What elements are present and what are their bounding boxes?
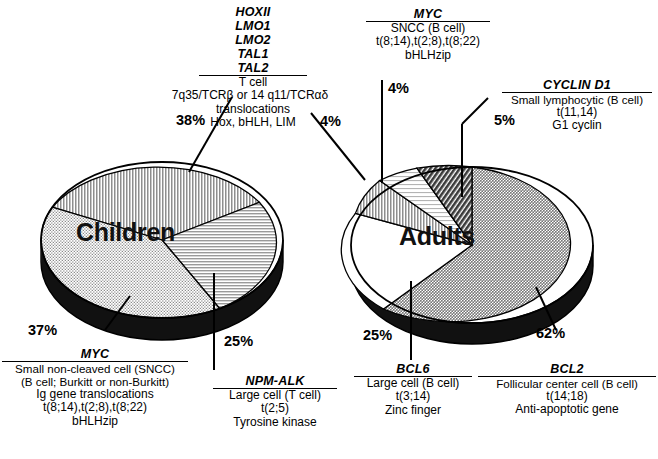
gene-tal1: TAL1	[168, 47, 338, 61]
myc-adults-line-1: SNCC (B cell)	[352, 22, 504, 35]
t-cell-line-4: Hox, bHLH, LIM	[168, 116, 338, 129]
bcl6-line-3: Zinc finger	[354, 404, 472, 417]
gene-bcl2: BCL2	[478, 362, 656, 377]
callout-cyclin-d1: CYCLIN D1 Small lymphocytic (B cell) t(1…	[499, 78, 655, 133]
gene-myc-children: MYC	[2, 347, 188, 362]
cyclin-d1-line-2: t(11,14)	[499, 106, 655, 119]
npm-alk-line-3: Tyrosine kinase	[213, 416, 337, 429]
pie-label-children: Children	[76, 218, 175, 247]
percent-adults-bcl6: 25%	[363, 327, 392, 343]
gene-lmo2: LMO2	[168, 33, 338, 47]
callout-myc-children: MYC Small non-cleaved cell (SNCC) (B cel…	[2, 347, 188, 428]
figure-canvas: Children Adults 38% 37% 25% 4% 4% 5% 25%…	[0, 0, 658, 459]
t-cell-line-3: translocations	[168, 103, 338, 116]
gene-lmo1: LMO1	[168, 19, 338, 33]
percent-adults-myc: 4%	[388, 80, 409, 96]
percent-children-npm-alk: 25%	[224, 333, 253, 349]
gene-bcl6: BCL6	[354, 362, 472, 377]
npm-alk-line-2: t(2;5)	[213, 402, 337, 415]
gene-myc-adults: MYC	[366, 7, 490, 22]
bcl2-line-2: t(14;18)	[478, 390, 656, 403]
callout-t-cell-children: HOXII LMO1 LMO2 TAL1 TAL2 T cell 7q35/TC…	[168, 5, 338, 130]
percent-adults-bcl2: 62%	[536, 325, 565, 341]
myc-adults-line-2: t(8;14),t(2;8),t(8;22)	[352, 35, 504, 48]
myc-adults-line-3: bHLHzip	[352, 49, 504, 62]
pie-adults	[341, 166, 593, 344]
callout-npm-alk: NPM-ALK Large cell (T cell) t(2;5) Tyros…	[213, 374, 337, 429]
myc-children-line-5: bHLHzip	[2, 415, 188, 428]
pie-children	[41, 162, 283, 340]
callout-bcl6: BCL6 Large cell (B cell) t(3;14) Zinc fi…	[354, 362, 472, 417]
pie-label-adults: Adults	[399, 222, 475, 251]
bcl2-line-3: Anti-apoptotic gene	[478, 403, 656, 416]
cyclin-d1-line-3: G1 cyclin	[499, 119, 655, 132]
myc-children-line-3: Ig gene translocations	[2, 388, 188, 401]
t-cell-line-2: 7q35/TCRβ or 14 q11/TCRαδ	[162, 89, 338, 102]
gene-cyclin-d1: CYCLIN D1	[502, 78, 652, 93]
gene-hoxii: HOXII	[168, 5, 338, 19]
callout-bcl2: BCL2 Follicular center cell (B cell) t(1…	[478, 362, 656, 417]
leader-adults-cyclin-d1a	[462, 98, 488, 124]
bcl6-line-2: t(3;14)	[354, 390, 472, 403]
gene-tal2: TAL2	[199, 61, 307, 76]
myc-children-line-1: Small non-cleaved cell (SNCC)	[2, 362, 188, 375]
t-cell-line-1: T cell	[168, 76, 338, 89]
myc-children-line-4: t(8;14),t(2;8),t(8;22)	[2, 401, 188, 414]
npm-alk-line-1: Large cell (T cell)	[213, 389, 337, 402]
percent-children-myc: 37%	[28, 322, 57, 338]
bcl6-line-1: Large cell (B cell)	[354, 377, 472, 390]
gene-npm-alk: NPM-ALK	[213, 374, 337, 389]
callout-myc-adults: MYC SNCC (B cell) t(8;14),t(2;8),t(8;22)…	[352, 7, 504, 62]
